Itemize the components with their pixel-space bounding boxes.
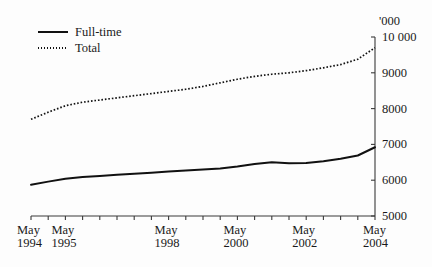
x-axis-tick-label: May1998 <box>155 224 180 250</box>
x-axis-tick-label: May2002 <box>292 224 317 250</box>
x-tick-year: 1994 <box>17 237 42 250</box>
x-tick-year: 2002 <box>292 237 317 250</box>
y-axis-ticks <box>371 37 375 216</box>
y-axis-unit-label: '000 <box>379 14 400 29</box>
y-axis-tick-label: 6000 <box>382 173 407 188</box>
series-line-full-time <box>31 147 375 185</box>
x-axis-tick-label: May2000 <box>223 224 248 250</box>
y-axis-tick-label: 8000 <box>382 101 407 116</box>
y-axis-tick-label: 7000 <box>382 137 407 152</box>
line-chart: Full-time Total '000 5000600070008000900… <box>0 0 432 267</box>
y-axis-tick-label: 9000 <box>382 65 407 80</box>
y-axis-tick-label: 5000 <box>382 209 407 224</box>
x-axis-tick-label: May2004 <box>363 224 388 250</box>
x-tick-year: 2004 <box>363 237 388 250</box>
series-line-total <box>31 48 375 120</box>
x-tick-year: 1998 <box>155 237 180 250</box>
data-series-group <box>31 48 375 185</box>
x-tick-year: 2000 <box>223 237 248 250</box>
x-axis-tick-label: May1994 <box>17 224 42 250</box>
x-axis-tick-label: May1995 <box>51 224 76 250</box>
axes <box>31 37 375 220</box>
x-tick-year: 1995 <box>51 237 76 250</box>
x-axis-ticks <box>31 216 375 220</box>
y-axis-tick-label: 10 000 <box>382 30 416 45</box>
